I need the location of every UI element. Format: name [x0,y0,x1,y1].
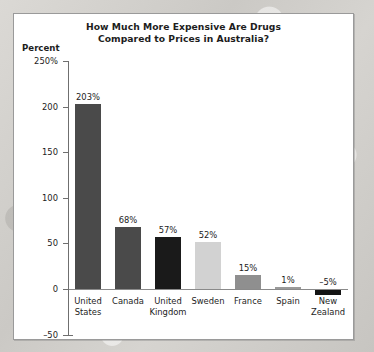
y-tick-label: 50 [14,238,58,248]
bar[interactable] [75,104,101,289]
bar-group: 68%Canada [108,14,148,341]
bar[interactable] [275,287,301,290]
y-tick-label: 200 [14,102,58,112]
bar-value-label: 52% [188,230,228,240]
bar-group: 57%UnitedKingdom [148,14,188,341]
y-tick-label: 0 [14,284,58,294]
category-label-line: States [64,307,112,318]
y-tick-label: 150 [14,147,58,157]
bar-value-label: 68% [108,215,148,225]
y-tick-label: –50 [14,330,58,340]
bar[interactable] [155,237,181,289]
plot-area: 250%200150100500–50 203%UnitedStates68%C… [14,14,353,339]
bar-value-label: 57% [148,225,188,235]
bar-group: 203%UnitedStates [68,14,108,341]
bar-value-label: 15% [228,263,268,273]
category-label-line: New [304,296,352,307]
bar-group: 15%France [228,14,268,341]
bar-series: 203%UnitedStates68%Canada57%UnitedKingdo… [68,14,348,341]
bar-value-label: 203% [68,92,108,102]
bar[interactable] [115,227,141,289]
bar[interactable] [235,275,261,289]
category-label-line: Zealand [304,307,352,318]
y-tick-label: 100 [14,193,58,203]
bar-value-label: –5% [308,277,348,287]
bar-group: –5%NewZealand [308,14,348,341]
bar-group: 1%Spain [268,14,308,341]
bar[interactable] [195,242,221,289]
category-label-line: Kingdom [144,307,192,318]
category-label: NewZealand [304,296,352,317]
chart-panel: How Much More Expensive Are Drugs Compar… [13,13,354,340]
bar-group: 52%Sweden [188,14,228,341]
y-tick-label: 250% [14,56,58,66]
bar[interactable] [315,290,341,295]
bar-value-label: 1% [268,275,308,285]
